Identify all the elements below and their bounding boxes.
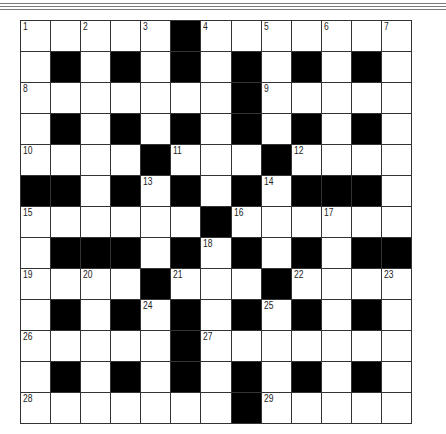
grid-cell-r3c12[interactable]: [382, 114, 412, 145]
grid-cell-r10c8[interactable]: [262, 331, 292, 362]
grid-cell-r2c8[interactable]: 9: [262, 83, 292, 114]
grid-cell-r1c6[interactable]: [201, 52, 231, 83]
grid-cell-r8c11[interactable]: [352, 269, 382, 300]
grid-cell-r0c9[interactable]: [292, 21, 322, 52]
grid-cell-r4c3[interactable]: [111, 145, 141, 176]
grid-cell-r1c10[interactable]: [322, 52, 352, 83]
grid-cell-r4c6[interactable]: [201, 145, 231, 176]
grid-cell-r12c4[interactable]: [141, 393, 171, 424]
grid-cell-r2c10[interactable]: [322, 83, 352, 114]
grid-cell-r6c3[interactable]: [111, 207, 141, 238]
grid-cell-r8c6[interactable]: [201, 269, 231, 300]
grid-cell-r11c0[interactable]: [21, 362, 51, 393]
grid-cell-r8c9[interactable]: 22: [292, 269, 322, 300]
grid-cell-r4c9[interactable]: 12: [292, 145, 322, 176]
grid-cell-r4c5[interactable]: 11: [171, 145, 201, 176]
grid-cell-r9c2[interactable]: [81, 300, 111, 331]
grid-cell-r5c8[interactable]: 14: [262, 176, 292, 207]
grid-cell-r12c2[interactable]: [81, 393, 111, 424]
grid-cell-r12c9[interactable]: [292, 393, 322, 424]
grid-cell-r1c8[interactable]: [262, 52, 292, 83]
grid-cell-r7c6[interactable]: 18: [201, 238, 231, 269]
grid-cell-r12c10[interactable]: [322, 393, 352, 424]
grid-cell-r6c7[interactable]: 16: [232, 207, 262, 238]
grid-cell-r4c11[interactable]: [352, 145, 382, 176]
grid-cell-r12c5[interactable]: [171, 393, 201, 424]
grid-cell-r11c2[interactable]: [81, 362, 111, 393]
grid-cell-r12c12[interactable]: [382, 393, 412, 424]
grid-cell-r6c9[interactable]: [292, 207, 322, 238]
grid-cell-r9c8[interactable]: 25: [262, 300, 292, 331]
grid-cell-r12c1[interactable]: [51, 393, 81, 424]
grid-cell-r6c12[interactable]: [382, 207, 412, 238]
grid-cell-r2c5[interactable]: [171, 83, 201, 114]
grid-cell-r12c11[interactable]: [352, 393, 382, 424]
grid-cell-r3c4[interactable]: [141, 114, 171, 145]
grid-cell-r10c3[interactable]: [111, 331, 141, 362]
grid-cell-r12c6[interactable]: [201, 393, 231, 424]
grid-cell-r12c3[interactable]: [111, 393, 141, 424]
grid-cell-r6c1[interactable]: [51, 207, 81, 238]
grid-cell-r9c4[interactable]: 24: [141, 300, 171, 331]
grid-cell-r2c1[interactable]: [51, 83, 81, 114]
grid-cell-r2c0[interactable]: 8: [21, 83, 51, 114]
grid-cell-r1c4[interactable]: [141, 52, 171, 83]
grid-cell-r7c0[interactable]: [21, 238, 51, 269]
grid-cell-r3c10[interactable]: [322, 114, 352, 145]
grid-cell-r0c6[interactable]: 4: [201, 21, 231, 52]
grid-cell-r0c12[interactable]: 7: [382, 21, 412, 52]
grid-cell-r12c8[interactable]: 29: [262, 393, 292, 424]
grid-cell-r10c12[interactable]: [382, 331, 412, 362]
grid-cell-r3c6[interactable]: [201, 114, 231, 145]
grid-cell-r8c5[interactable]: 21: [171, 269, 201, 300]
grid-cell-r11c4[interactable]: [141, 362, 171, 393]
grid-cell-r7c4[interactable]: [141, 238, 171, 269]
grid-cell-r9c12[interactable]: [382, 300, 412, 331]
grid-cell-r5c6[interactable]: [201, 176, 231, 207]
grid-cell-r7c8[interactable]: [262, 238, 292, 269]
grid-cell-r4c1[interactable]: [51, 145, 81, 176]
grid-cell-r11c10[interactable]: [322, 362, 352, 393]
grid-cell-r4c12[interactable]: [382, 145, 412, 176]
grid-cell-r11c8[interactable]: [262, 362, 292, 393]
grid-cell-r2c4[interactable]: [141, 83, 171, 114]
grid-cell-r10c4[interactable]: [141, 331, 171, 362]
grid-cell-r2c3[interactable]: [111, 83, 141, 114]
grid-cell-r10c11[interactable]: [352, 331, 382, 362]
grid-cell-r8c10[interactable]: [322, 269, 352, 300]
grid-cell-r10c0[interactable]: 26: [21, 331, 51, 362]
grid-cell-r8c2[interactable]: 20: [81, 269, 111, 300]
grid-cell-r8c7[interactable]: [232, 269, 262, 300]
grid-cell-r0c10[interactable]: 6: [322, 21, 352, 52]
grid-cell-r0c8[interactable]: 5: [262, 21, 292, 52]
grid-cell-r2c2[interactable]: [81, 83, 111, 114]
grid-cell-r1c0[interactable]: [21, 52, 51, 83]
grid-cell-r4c2[interactable]: [81, 145, 111, 176]
grid-cell-r9c0[interactable]: [21, 300, 51, 331]
grid-cell-r2c9[interactable]: [292, 83, 322, 114]
grid-cell-r4c10[interactable]: [322, 145, 352, 176]
grid-cell-r4c0[interactable]: 10: [21, 145, 51, 176]
grid-cell-r10c10[interactable]: [322, 331, 352, 362]
grid-cell-r6c11[interactable]: [352, 207, 382, 238]
grid-cell-r10c1[interactable]: [51, 331, 81, 362]
grid-cell-r6c10[interactable]: 17: [322, 207, 352, 238]
grid-cell-r6c2[interactable]: [81, 207, 111, 238]
grid-cell-r5c2[interactable]: [81, 176, 111, 207]
grid-cell-r12c0[interactable]: 28: [21, 393, 51, 424]
grid-cell-r2c6[interactable]: [201, 83, 231, 114]
grid-cell-r5c12[interactable]: [382, 176, 412, 207]
grid-cell-r6c0[interactable]: 15: [21, 207, 51, 238]
grid-cell-r1c12[interactable]: [382, 52, 412, 83]
grid-cell-r0c4[interactable]: 3: [141, 21, 171, 52]
grid-cell-r2c12[interactable]: [382, 83, 412, 114]
grid-cell-r2c11[interactable]: [352, 83, 382, 114]
grid-cell-r10c9[interactable]: [292, 331, 322, 362]
grid-cell-r3c8[interactable]: [262, 114, 292, 145]
grid-cell-r8c3[interactable]: [111, 269, 141, 300]
grid-cell-r5c4[interactable]: 13: [141, 176, 171, 207]
grid-cell-r9c6[interactable]: [201, 300, 231, 331]
grid-cell-r6c8[interactable]: [262, 207, 292, 238]
grid-cell-r8c1[interactable]: [51, 269, 81, 300]
grid-cell-r0c1[interactable]: [51, 21, 81, 52]
